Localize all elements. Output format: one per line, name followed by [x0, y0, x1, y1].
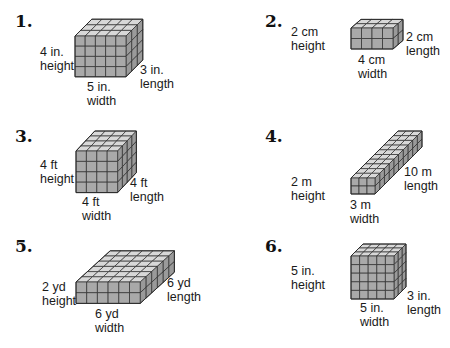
- height-label: 4 ft height: [40, 158, 74, 186]
- height-word: height: [291, 278, 325, 292]
- height-word: height: [291, 39, 325, 53]
- length-label: 2 cm length: [406, 30, 440, 58]
- length-value: 3 in.: [140, 63, 174, 77]
- length-word: length: [130, 190, 164, 204]
- width-label: 4 cm width: [358, 53, 387, 81]
- height-value: 4 ft: [40, 158, 74, 172]
- width-word: width: [82, 209, 111, 223]
- length-word: length: [404, 179, 438, 193]
- problem-number: 2.: [265, 13, 283, 30]
- height-word: height: [40, 59, 74, 73]
- height-label: 2 yd height: [42, 280, 76, 308]
- width-value: 4 ft: [82, 195, 111, 209]
- length-label: 4 ft length: [130, 176, 164, 204]
- width-value: 5 in.: [360, 301, 389, 315]
- length-word: length: [140, 77, 174, 91]
- height-word: height: [42, 294, 76, 308]
- length-word: length: [407, 303, 441, 317]
- problem-1: 1. 4 in. height 5 in. width 3 in. length: [0, 0, 225, 115]
- length-value: 6 yd: [167, 276, 201, 290]
- width-label: 5 in. width: [360, 301, 389, 329]
- width-label: 3 m width: [350, 198, 379, 226]
- length-label: 6 yd length: [167, 276, 201, 304]
- problem-number: 6.: [265, 238, 283, 255]
- width-word: width: [350, 212, 379, 226]
- width-label: 6 yd width: [95, 307, 124, 335]
- height-value: 2 cm: [291, 25, 325, 39]
- problem-number: 5.: [15, 238, 33, 255]
- height-value: 2 yd: [42, 280, 76, 294]
- width-word: width: [87, 94, 116, 108]
- problem-6: 6. 5 in. height 5 in. width 3 in. length: [225, 225, 450, 348]
- height-label: 5 in. height: [291, 264, 325, 292]
- length-value: 4 ft: [130, 176, 164, 190]
- problem-4: 4. 2 m height 3 m width 10 m length: [225, 115, 450, 225]
- length-value: 10 m: [404, 165, 438, 179]
- width-word: width: [95, 321, 124, 335]
- width-label: 5 in. width: [87, 80, 116, 108]
- problem-5: 5. 2 yd height 6 yd width 6 yd length: [0, 225, 225, 348]
- length-label: 3 in. length: [407, 289, 441, 317]
- width-value: 5 in.: [87, 80, 116, 94]
- length-word: length: [406, 44, 440, 58]
- height-value: 5 in.: [291, 264, 325, 278]
- problem-3: 3. 4 ft height 4 ft width 4 ft length: [0, 115, 225, 225]
- height-label: 4 in. height: [40, 45, 74, 73]
- height-word: height: [291, 189, 325, 203]
- width-word: width: [358, 67, 387, 81]
- length-label: 3 in. length: [140, 63, 174, 91]
- length-label: 10 m length: [404, 165, 438, 193]
- width-value: 4 cm: [358, 53, 387, 67]
- height-word: height: [40, 172, 74, 186]
- height-label: 2 m height: [291, 175, 325, 203]
- height-value: 4 in.: [40, 45, 74, 59]
- problem-number: 1.: [15, 13, 33, 30]
- problem-number: 4.: [265, 128, 283, 145]
- length-word: length: [167, 290, 201, 304]
- length-value: 2 cm: [406, 30, 440, 44]
- width-word: width: [360, 315, 389, 329]
- height-label: 2 cm height: [291, 25, 325, 53]
- problem-2: 2. 2 cm height 4 cm width 2 cm length: [225, 0, 450, 115]
- width-label: 4 ft width: [82, 195, 111, 223]
- length-value: 3 in.: [407, 289, 441, 303]
- width-value: 3 m: [350, 198, 379, 212]
- problem-number: 3.: [15, 128, 33, 145]
- height-value: 2 m: [291, 175, 325, 189]
- width-value: 6 yd: [95, 307, 124, 321]
